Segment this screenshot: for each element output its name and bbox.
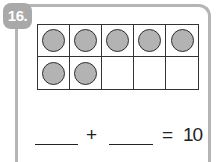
ten-frame-cell-empty (102, 57, 134, 89)
ten-frame-cell (70, 25, 102, 57)
answer-blank-1[interactable] (35, 124, 78, 145)
answer-blank-2[interactable] (109, 124, 153, 145)
counter-circle-icon (42, 29, 65, 52)
ten-frame-cell-empty (166, 57, 198, 89)
problem-number-badge: 16. (3, 3, 32, 29)
counter-circle-icon (74, 29, 97, 52)
counter-circle-icon (74, 62, 97, 85)
ten-frame-cell (38, 57, 70, 89)
plus-sign: + (86, 124, 97, 146)
counter-circle-icon (42, 62, 65, 85)
counter-circle-icon (106, 29, 129, 52)
ten-frame-cell (166, 25, 198, 57)
ten-frame-cell (70, 57, 102, 89)
ten-frame-cell-empty (134, 57, 166, 89)
equals-sign: = (162, 124, 173, 146)
equation: + = 10 (35, 124, 205, 154)
equation-result: 10 (183, 124, 202, 146)
ten-frame (37, 24, 199, 90)
counter-circle-icon (138, 29, 161, 52)
counter-circle-icon (171, 29, 194, 52)
ten-frame-cell (134, 25, 166, 57)
ten-frame-cell (102, 25, 134, 57)
ten-frame-cell (38, 25, 70, 57)
